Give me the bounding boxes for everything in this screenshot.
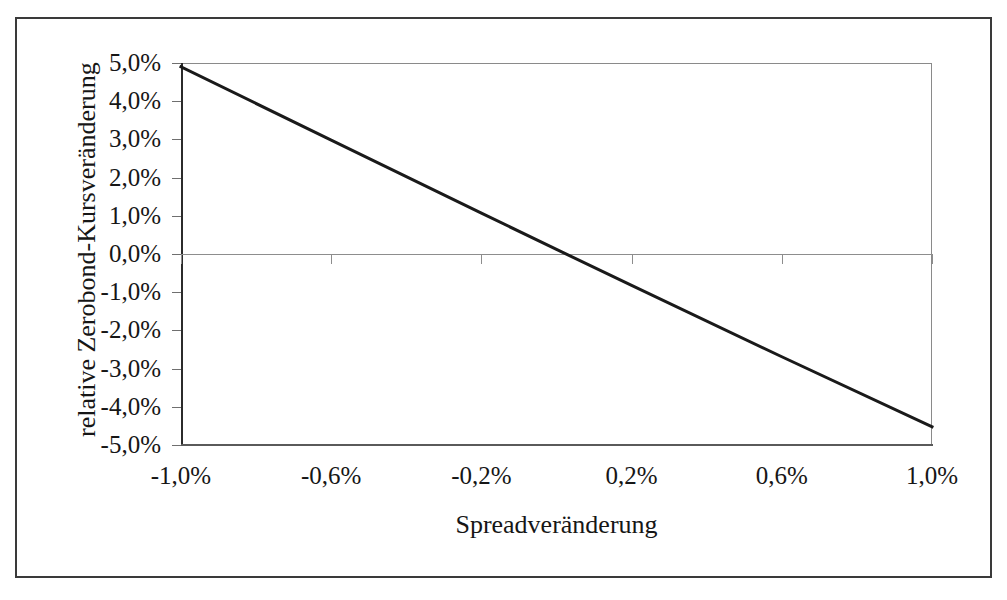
y-axis-tick	[172, 445, 181, 446]
x-axis-tick-label: 0,6%	[702, 463, 862, 488]
series-polyline	[181, 67, 932, 427]
y-axis-tick	[172, 63, 181, 64]
x-axis-tick-label: 0,2%	[552, 463, 712, 488]
x-axis-tick	[932, 254, 933, 264]
y-axis-tick	[172, 292, 181, 293]
x-axis-title: Spreadveränderung	[181, 510, 932, 540]
y-axis-tick	[172, 369, 181, 370]
x-axis-tick-label: -1,0%	[101, 463, 261, 488]
y-axis-tick	[172, 407, 181, 408]
series-line-chart	[181, 63, 932, 445]
y-axis-tick	[172, 254, 181, 255]
y-axis-tick	[172, 139, 181, 140]
chart-figure: 5,0%4,0%3,0%2,0%1,0%0,0%-1,0%-2,0%-3,0%-…	[0, 0, 1007, 600]
y-axis-tick	[172, 101, 181, 102]
x-axis-tick-label: 1,0%	[852, 463, 1007, 488]
y-axis-title: relative Zerobond-Kursveränderung	[72, 62, 102, 437]
x-axis-tick-label: -0,2%	[401, 463, 561, 488]
y-axis-tick	[172, 178, 181, 179]
x-axis-tick-label: -0,6%	[251, 463, 411, 488]
y-axis-tick	[172, 330, 181, 331]
y-axis-tick	[172, 216, 181, 217]
